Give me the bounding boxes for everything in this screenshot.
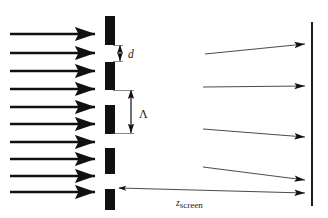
screen-distance-dimension-arrow [119,188,305,193]
grating-bar [105,189,115,210]
grating-bar [105,148,115,174]
figure-canvas: d Λ zscreen [0,0,328,218]
grating-bar [105,62,115,90]
diffracted-ray [203,129,305,137]
screen-distance-subscript: screen [180,200,203,210]
screen-distance-label: zscreen [175,198,203,210]
grating-bar [105,16,115,45]
grating-period-label: Λ [139,107,148,121]
diffracted-ray [205,44,305,54]
slit-width-dimension [113,46,123,62]
diffracted-ray [203,167,305,180]
diffraction-grating-figure: d Λ zscreen [0,0,328,218]
diffracted-ray [203,86,305,87]
grating-bar [105,105,115,134]
slit-width-label: d [128,48,134,60]
grating-bars [105,16,115,210]
incident-wave-arrows [10,34,95,192]
diffracted-ray-arrows [203,44,305,180]
